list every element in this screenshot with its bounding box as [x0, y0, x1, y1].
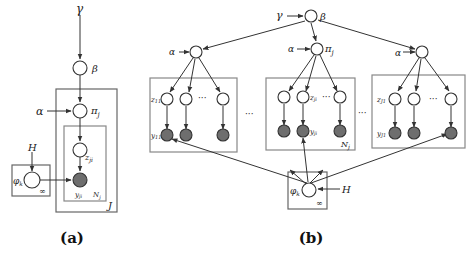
label-pi-b: πj: [324, 43, 335, 57]
label-plate-j: J: [106, 200, 113, 211]
node-z-j1: [278, 91, 290, 103]
label-z11: z11: [150, 96, 161, 104]
label-gamma: γ: [76, 2, 84, 16]
label-yJ1: yJ1: [376, 130, 386, 139]
label-yji: yji: [309, 128, 318, 137]
edge-beta-right: [318, 20, 415, 49]
edge-pi1-z3: [199, 58, 220, 92]
label-alpha-mid: α: [288, 44, 294, 54]
node-z-jn: [334, 91, 346, 103]
ellipsis-mid: ···: [322, 92, 331, 102]
edge-pij-z2: [306, 56, 316, 91]
node-y-ji: [297, 125, 309, 137]
node-phi: [24, 172, 40, 188]
edge-pij-z3: [320, 55, 337, 91]
label-plate-nj: Nj: [92, 191, 101, 201]
label-phi-b: φk: [290, 186, 300, 197]
label-alpha-left: α: [169, 47, 175, 57]
ellipsis-right: ···: [429, 94, 438, 104]
node-y-1n: [217, 129, 229, 141]
ellipsis-left: ···: [198, 93, 207, 103]
node-z-11: [161, 93, 173, 105]
node-z-J1: [389, 93, 401, 105]
panel-b: γ β α α α πj z11 y11 ··· zji yji ··· Nj …: [150, 9, 465, 247]
node-y-11: [161, 129, 173, 141]
caption-a: (a): [60, 229, 84, 247]
node-z-Jn: [445, 93, 457, 105]
node-pi-j: [311, 43, 323, 55]
edge-pi1-z2: [189, 59, 195, 92]
node-pi: [73, 104, 87, 118]
edge-phi-y11: [172, 139, 307, 183]
label-z: zji: [84, 153, 93, 164]
label-infinity: ∞: [39, 187, 46, 196]
node-y-jn: [334, 125, 346, 137]
hdp-graphical-model-figure: γ β α πj zji yji Nj J H φk ∞ (a): [0, 0, 473, 256]
node-phi-b: [302, 183, 316, 197]
node-z-J2: [408, 93, 420, 105]
node-beta: [73, 61, 87, 75]
node-beta-b: [305, 10, 317, 22]
label-alpha: α: [36, 105, 44, 118]
label-y11: y11: [150, 132, 161, 140]
node-y-J2: [408, 127, 420, 139]
label-h-b: H: [341, 184, 351, 195]
node-y-Jn: [445, 127, 457, 139]
ellipsis-between-1: ···: [245, 109, 254, 119]
plate-nj-inner: [64, 126, 106, 201]
label-beta-b: β: [319, 11, 326, 22]
panel-a: γ β α πj zji yji Nj J H φk ∞ (a): [12, 2, 117, 247]
edge-beta-mid: [311, 23, 316, 41]
node-z-12: [180, 93, 192, 105]
node-y-observed: [73, 173, 87, 187]
node-y-J1: [389, 127, 401, 139]
ellipsis-between-2: ···: [358, 108, 367, 118]
label-gamma-b: γ: [276, 9, 283, 22]
edge-phi-yji: [303, 138, 308, 182]
label-pi: πj: [90, 105, 101, 119]
label-zJ1: zJ1: [376, 96, 386, 105]
edge-phi-yJ: [311, 134, 447, 183]
edge-pij-z1: [289, 55, 314, 91]
label-alpha-right: α: [395, 48, 401, 58]
label-plate-nj-b: Nj: [340, 140, 350, 151]
label-phi: φk: [13, 176, 23, 187]
label-zji: zji: [309, 94, 317, 103]
label-beta: β: [91, 63, 98, 74]
node-y-12: [180, 129, 192, 141]
node-pi-J: [416, 46, 428, 58]
node-y-j1: [278, 125, 290, 137]
label-h: H: [27, 142, 37, 153]
node-pi-1: [190, 46, 202, 58]
node-z-ji: [297, 91, 309, 103]
caption-b: (b): [299, 229, 324, 247]
label-y: yji: [74, 191, 83, 200]
node-z-1n: [217, 93, 229, 105]
label-infinity-b: ∞: [316, 199, 323, 208]
